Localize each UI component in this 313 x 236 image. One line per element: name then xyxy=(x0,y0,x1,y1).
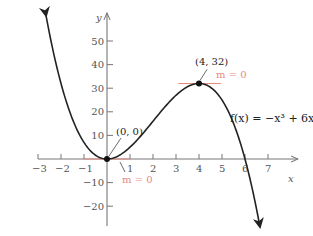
x-tick-label: 5 xyxy=(219,163,225,174)
leader-line xyxy=(109,138,121,156)
point-label-max: (4, 32) xyxy=(195,56,228,67)
x-tick-label: 3 xyxy=(173,163,179,174)
y-tick-label: −10 xyxy=(83,177,104,188)
function-curve xyxy=(46,16,260,227)
function-graph: −3−2−11234567−20−101020304050 (0, 0)m = … xyxy=(0,0,313,236)
x-axis-label: x xyxy=(288,173,294,184)
x-tick-label: −3 xyxy=(32,163,47,174)
point-label-origin: (0, 0) xyxy=(116,126,143,137)
x-tick-label: −1 xyxy=(78,163,93,174)
leader-line xyxy=(120,162,125,172)
y-tick-label: −20 xyxy=(83,201,104,212)
x-tick-label: 1 xyxy=(127,163,133,174)
x-tick-label: −2 xyxy=(55,163,70,174)
x-tick-label: 7 xyxy=(265,163,271,174)
critical-point xyxy=(104,156,110,162)
slope-label-max: m = 0 xyxy=(216,69,247,80)
y-axis-label: y xyxy=(95,12,102,23)
y-tick-label: 20 xyxy=(91,106,104,117)
slope-label-origin: m = 0 xyxy=(122,174,153,185)
x-tick-label: 4 xyxy=(196,163,202,174)
function-label: f(x) = −x³ + 6x² xyxy=(230,112,313,125)
critical-point xyxy=(196,80,202,86)
y-tick-label: 40 xyxy=(91,59,104,70)
y-tick-label: 50 xyxy=(91,36,104,47)
x-tick-label: 2 xyxy=(150,163,156,174)
y-tick-label: 10 xyxy=(91,130,104,141)
leader-line xyxy=(200,69,207,80)
y-tick-label: 30 xyxy=(91,83,104,94)
